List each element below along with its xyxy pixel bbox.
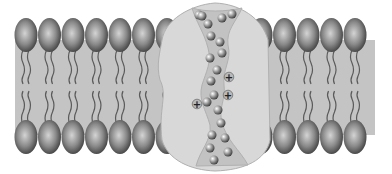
- lipid-head-top: [344, 18, 367, 52]
- plus-sign: +: [224, 90, 232, 101]
- water-molecule: [218, 49, 227, 58]
- water-molecule: [208, 131, 217, 140]
- water-molecule: [221, 134, 230, 143]
- lipid-head-bottom: [297, 120, 320, 154]
- water-molecule: [203, 98, 212, 107]
- water-molecule: [207, 77, 216, 86]
- lipid-head-bottom: [85, 120, 108, 154]
- lipid-head-top: [273, 18, 296, 52]
- lipid-head-top: [297, 18, 320, 52]
- lipid-head-top: [15, 18, 38, 52]
- water-molecule: [214, 106, 223, 115]
- water-molecule: [218, 14, 227, 23]
- water-molecule: [198, 12, 207, 21]
- lipid-head-bottom: [62, 120, 85, 154]
- lipid-head-bottom: [273, 120, 296, 154]
- lipid-head-top: [320, 18, 343, 52]
- plus-sign: +: [193, 99, 201, 110]
- lipid-head-bottom: [15, 120, 38, 154]
- water-molecule: [228, 10, 237, 19]
- water-molecule: [206, 54, 215, 63]
- lipid-head-top: [38, 18, 61, 52]
- water-molecule: [213, 66, 222, 75]
- water-molecule: [217, 119, 226, 128]
- lipid-head-bottom: [38, 120, 61, 154]
- lipid-head-top: [109, 18, 132, 52]
- water-molecule: [206, 144, 215, 153]
- membrane-illustration: +++: [0, 0, 392, 174]
- lipid-head-top: [85, 18, 108, 52]
- lipid-head-top: [62, 18, 85, 52]
- lipid-head-bottom: [320, 120, 343, 154]
- lipid-head-bottom: [344, 120, 367, 154]
- channel-protein: [158, 3, 270, 171]
- lipid-head-bottom: [132, 120, 155, 154]
- water-molecule: [204, 20, 213, 29]
- water-molecule: [210, 91, 219, 100]
- water-molecule: [224, 148, 233, 157]
- lipid-head-top: [132, 18, 155, 52]
- water-molecule: [210, 156, 219, 165]
- water-molecule: [207, 32, 216, 41]
- ion-channel-diagram: +++: [0, 0, 392, 174]
- water-molecule: [216, 38, 225, 47]
- plus-sign: +: [225, 72, 233, 83]
- lipid-head-bottom: [109, 120, 132, 154]
